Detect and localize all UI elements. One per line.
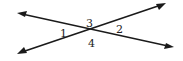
line-a-arrowhead-left <box>17 11 27 17</box>
angle-label-1: 1 <box>60 27 67 40</box>
intersecting-lines-diagram: 1 2 3 4 <box>0 0 183 61</box>
line-b-arrowhead-right <box>156 3 166 10</box>
angle-label-4: 4 <box>88 37 95 50</box>
line-a <box>22 14 168 46</box>
angle-label-3: 3 <box>86 17 93 30</box>
line-b-arrowhead-left <box>17 47 27 54</box>
line-a-arrowhead-right <box>164 43 174 49</box>
angle-label-2: 2 <box>116 23 123 36</box>
